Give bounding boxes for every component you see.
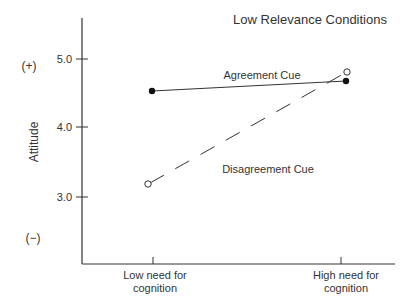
x-tick-label: cognition [324,282,368,294]
chart: Low Relevance Conditions 5.0 4.0 3.0 (+)… [0,0,415,308]
disagreement-point-high [344,69,350,75]
agreement-point-high [343,78,349,84]
x-tick-label: Low need for [123,269,187,281]
positive-annotation: (+) [22,59,37,73]
y-tick-label: 3.0 [57,191,72,203]
y-axis-label: Attitude [27,121,41,162]
negative-annotation: (−) [26,231,41,245]
x-tick-label: High need for [313,269,379,281]
disagreement-label: Disagreement Cue [222,163,314,175]
y-tick-label: 5.0 [57,53,72,65]
agreement-label: Agreement Cue [223,69,300,81]
disagreement-point-low [145,181,151,187]
chart-title: Low Relevance Conditions [233,12,387,27]
agreement-point-low [149,88,155,94]
y-tick-label: 4.0 [57,121,72,133]
agreement-line [152,81,346,91]
x-tick-label: cognition [133,282,177,294]
